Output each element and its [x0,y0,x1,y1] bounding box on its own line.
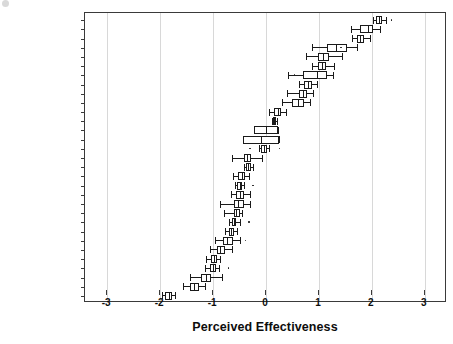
whisker-cap [262,155,263,162]
whisker-cap [242,210,243,217]
median-line [231,228,232,236]
outlier-point [252,185,254,187]
outlier-point [391,19,393,21]
x-tick-label: 0 [262,297,268,308]
x-tick-label: 2 [368,297,374,308]
whisker-cap [183,283,184,290]
whisker-cap [215,237,216,244]
outlier-point [249,148,251,150]
y-tick-mark [81,149,85,150]
y-tick-mark [81,57,85,58]
whisker-cap [299,81,300,88]
median-line [248,163,249,171]
y-tick-mark [81,29,85,30]
x-tick-mark [424,290,425,295]
y-tick-mark [81,158,85,159]
whisker-cap [333,72,334,79]
median-line [278,108,279,116]
whisker-cap [278,127,279,134]
x-tick-mark [159,290,160,295]
y-tick-mark [81,232,85,233]
x-tick-label: 1 [315,297,321,308]
whisker-cap [269,145,270,152]
median-line [242,172,243,180]
whisker-cap [287,90,288,97]
median-line [261,136,262,144]
whisker-cap [279,136,280,143]
y-tick-mark [81,222,85,223]
median-line [303,90,304,98]
whisker-cap [231,191,232,198]
box [223,237,234,245]
whisker-cap [237,228,238,235]
box [327,44,347,52]
median-line [322,62,323,70]
y-tick-mark [81,94,85,95]
whisker-cap [253,164,254,171]
box [360,25,373,33]
whisker-cap [220,256,221,263]
x-tick-mark [106,290,107,295]
median-line [234,218,235,226]
x-tick-mark [212,290,213,295]
y-tick-mark [81,103,85,104]
y-tick-mark [81,121,85,122]
whisker-cap [224,210,225,217]
outlier-point [228,267,230,269]
x-axis-title: Perceived Effectiveness [84,320,446,334]
median-line [274,117,275,125]
whisker-cap [235,182,236,189]
median-line [194,283,195,291]
y-tick-mark [81,278,85,279]
whisker-cap [225,228,226,235]
whisker-cap [317,81,318,88]
whisker-cap [205,265,206,272]
median-line [214,255,215,263]
whisker-cap [229,219,230,226]
whisker-cap [205,283,206,290]
median-line [227,237,228,245]
boxplot-chart: SINGAPORENEW ZEALANDAUSTRALIAHONG KONGTA… [0,0,453,344]
x-tick-label: -2 [155,297,164,308]
whisker-cap [286,109,287,116]
whisker-cap [269,109,270,116]
y-tick-mark [81,39,85,40]
median-line [213,264,214,272]
x-tick-label: -1 [208,297,217,308]
whisker-cap [334,63,335,70]
y-tick-mark [81,186,85,187]
y-tick-mark [81,167,85,168]
y-tick-mark [81,66,85,67]
whisker-cap [232,246,233,253]
whisker-cap [222,274,223,281]
whisker-cap [380,26,381,33]
whisker-cap [313,90,314,97]
whisker-cap [312,63,313,70]
whisker-cap [250,201,251,208]
y-tick-mark [81,213,85,214]
median-line [264,145,265,153]
whisker-cap [357,44,358,51]
whisker-cap [259,145,260,152]
whisker-cap [312,44,313,51]
whisker-cap [240,219,241,226]
whisker-cap [306,53,307,60]
outlier-point [279,148,281,150]
whisker-cap [232,155,233,162]
whisker-cap [244,164,245,171]
y-tick-mark [81,20,85,21]
median-line [317,71,318,79]
y-tick-mark [81,48,85,49]
whisker-cap [282,99,283,106]
median-line [336,44,337,52]
whisker-cap [190,274,191,281]
whisker-cap [220,201,221,208]
median-line [169,292,170,300]
median-line [379,16,380,24]
median-line [220,246,221,254]
x-tick-mark [371,290,372,295]
y-tick-mark [81,204,85,205]
x-tick-label: -3 [102,297,111,308]
whisker-cap [175,292,176,299]
whisker-cap [352,35,353,42]
